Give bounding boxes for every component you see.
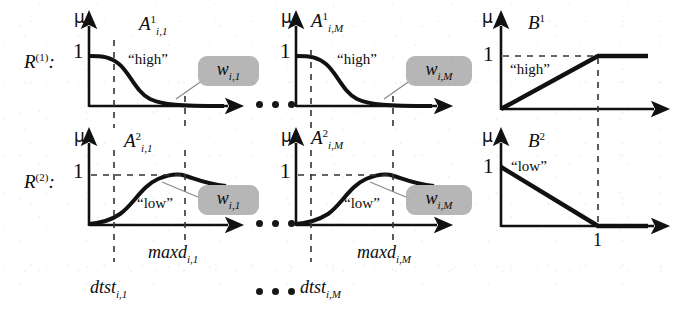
term-label-r2-p1: “low” (137, 196, 173, 211)
set-label-r1-p3: B1 (528, 13, 545, 32)
figure-vector-layer (0, 0, 683, 317)
weight-label-r2-p2: wi,M (426, 189, 453, 211)
y-tick-one-r1-p2: 1 (280, 41, 291, 62)
bottom-label-dtst-M: dtsti,M (300, 278, 341, 300)
weight-badge-r1-p1: wi,1 (198, 56, 259, 86)
set-label-r2-p3: B2 (528, 131, 545, 150)
term-label-r1-p1: “high” (128, 52, 168, 67)
term-label-r2-p3: “low” (511, 159, 547, 174)
bottom-label-maxd-M: maxdi,M (357, 243, 411, 265)
weight-label-r1-p1: wi,1 (217, 60, 240, 82)
y-tick-one-r2-p2: 1 (280, 161, 291, 182)
weight-badge-r2-p2: wi,M (406, 185, 472, 215)
fuzzy-membership-figure: R(1): μ 1 A1i,1 “high” wi,1 μ 1 A1i,M “h… (0, 0, 683, 317)
y-tick-one-r1-p3: 1 (483, 44, 494, 65)
y-tick-one-r2-p3: 1 (483, 156, 494, 177)
axis-label-mu-r2-p3: μ (482, 128, 493, 145)
weight-label-r1-p2: wi,M (426, 60, 453, 82)
axis-label-mu-r2-p1: μ (74, 128, 85, 145)
set-label-r2-p1: A2i,1 (124, 131, 152, 154)
y-tick-one-r2-p1: 1 (73, 161, 84, 182)
set-label-r2-p2: A2i,M (311, 128, 343, 151)
bottom-label-dtst-1: dtsti,1 (90, 278, 127, 300)
term-label-r1-p2: “high” (337, 52, 377, 67)
curve-r2-p3 (501, 167, 648, 226)
set-label-r1-p1: A1i,1 (139, 14, 167, 37)
axis-label-mu-r2-p2: μ (281, 128, 292, 145)
axis-label-mu-r1-p2: μ (281, 9, 292, 26)
weight-badge-r1-p2: wi,M (406, 56, 472, 86)
y-tick-one-r1-p1: 1 (73, 41, 84, 62)
term-label-r1-p3: “high” (510, 62, 550, 77)
weight-badge-r2-p1: wi,1 (198, 185, 259, 215)
x-tick-one-r2-p3: 1 (593, 231, 602, 249)
axis-label-mu-r1-p1: μ (74, 9, 85, 26)
axis-label-mu-r1-p3: μ (482, 9, 493, 26)
weight-label-r2-p1: wi,1 (217, 189, 240, 211)
ellipsis-bottom (256, 288, 295, 295)
bottom-label-maxd-1: maxdi,1 (148, 243, 198, 265)
ellipsis-row2 (256, 220, 295, 227)
term-label-r2-p2: “low” (344, 196, 380, 211)
rule-label-row-1: R(1): (24, 52, 55, 71)
set-label-r1-p2: A1i,M (311, 11, 343, 34)
rule-label-row-2: R(2): (24, 172, 55, 191)
ellipsis-row1 (256, 101, 295, 108)
